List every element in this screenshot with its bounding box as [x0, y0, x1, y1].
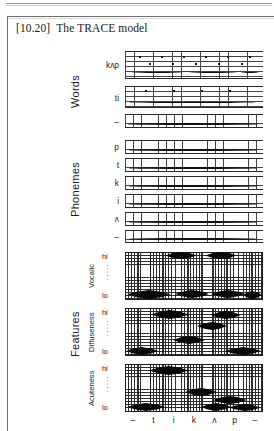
phoneme-panel-i [125, 194, 263, 208]
phoneme-activation-trace [129, 167, 257, 169]
word-tick [205, 56, 207, 58]
phoneme-panel-border [125, 140, 263, 154]
word-activation-trace [128, 102, 256, 104]
tier-words: Words kʌp [0, 50, 274, 133]
word-activation-trace [241, 72, 259, 74]
word-panel-dash [125, 114, 263, 128]
feature-scale-hi-diffuseness: hi [102, 309, 108, 316]
word-tick [173, 90, 175, 92]
word-panel-kap [125, 51, 263, 79]
phoneme-row-i: i [0, 194, 274, 209]
feature-scale-dots-acuteness: ····· [104, 376, 111, 400]
figure-page: [10.20]The TRACE model Words kʌp [0, 0, 274, 431]
phoneme-panel-k [125, 176, 263, 190]
phoneme-panel-border [125, 176, 263, 190]
word-activation-trace [189, 72, 237, 74]
axis-tick: i [167, 415, 181, 425]
feature-sub-label-vocalic: Vocalic [86, 252, 97, 300]
phoneme-activation-trace [129, 185, 257, 187]
figure-frame-inner-rule [8, 18, 274, 19]
word-row-label-dash: – [92, 118, 119, 126]
phoneme-panel-dash [125, 230, 263, 243]
word-row-ti: ti [0, 86, 274, 110]
feature-scale-dots-diffuseness: ····· [104, 320, 111, 344]
word-row-kap: kʌp [0, 50, 274, 80]
word-tick [161, 56, 163, 58]
word-tick [195, 63, 197, 65]
feature-row-acuteness: Acuteness hi ····· lo [0, 364, 274, 414]
feature-sub-label-diffuseness: Diffuseness [86, 308, 97, 356]
phoneme-row-p: p [0, 140, 274, 155]
feature-panel-vocalic [125, 252, 263, 300]
word-tick [249, 56, 251, 58]
phoneme-row-label-schwa: ʌ [92, 215, 119, 223]
word-tick [218, 63, 220, 65]
phoneme-row-label-k: k [92, 179, 119, 187]
word-tick [139, 56, 141, 58]
feature-sub-label-acuteness: Acuteness [86, 364, 97, 412]
phoneme-row-schwa: ʌ [0, 212, 274, 227]
feature-panel-diffuseness [125, 308, 263, 356]
word-panel-border [125, 114, 263, 128]
figure-number: [10.20] [16, 22, 50, 34]
word-tick [241, 63, 243, 65]
word-activation-trace [128, 123, 258, 125]
page-rule-top-secondary [6, 5, 272, 6]
axis-tick: – [126, 415, 140, 425]
axis-tick: – [248, 415, 262, 425]
phoneme-panel-schwa [125, 212, 263, 226]
feature-scale-dots-vocalic: ····· [104, 264, 111, 288]
word-tick [201, 90, 203, 92]
word-activation-trace [131, 72, 183, 74]
word-tick [149, 63, 151, 65]
feature-scale-lo-acuteness: lo [102, 404, 108, 411]
phoneme-panel-p [125, 140, 263, 154]
time-axis: – t i k ʌ p – [126, 415, 262, 425]
phoneme-row-dash: – [0, 230, 274, 245]
phoneme-row-t: t [0, 158, 274, 173]
phoneme-activation-trace [129, 203, 257, 205]
feature-row-vocalic: Vocalic hi ····· lo [0, 252, 274, 302]
word-row-dash: – [0, 114, 274, 131]
feature-scale-hi-vocalic: hi [102, 253, 108, 260]
feature-scale-lo-vocalic: lo [102, 292, 108, 299]
phoneme-panel-border [125, 212, 263, 226]
axis-tick: k [187, 415, 201, 425]
feature-scale-hi-acuteness: hi [102, 365, 108, 372]
word-row-label-ti: ti [92, 94, 119, 102]
figure-caption: [10.20]The TRACE model [16, 22, 148, 34]
tier-features: Features Vocalic hi ····· lo Diffuseness… [0, 252, 274, 427]
axis-tick: t [146, 415, 160, 425]
phoneme-activation-trace [129, 238, 257, 240]
phoneme-row-label-p: p [92, 143, 119, 151]
phoneme-activation-trace [129, 149, 257, 151]
phoneme-panel-t [125, 158, 263, 172]
page-rule-top [6, 3, 272, 4]
feature-panel-acuteness [125, 364, 263, 412]
phoneme-row-label-dash: – [92, 233, 119, 241]
phoneme-row-k: k [0, 176, 274, 191]
word-tick [145, 90, 147, 92]
axis-tick: ʌ [207, 415, 221, 425]
word-row-label-kap: kʌp [92, 61, 119, 69]
word-panel-ti [125, 86, 263, 108]
figure-title: The TRACE model [56, 22, 147, 34]
feature-row-diffuseness: Diffuseness hi ····· lo [0, 308, 274, 358]
axis-tick: p [228, 415, 242, 425]
phoneme-row-label-i: i [92, 197, 119, 205]
word-tick [227, 56, 229, 58]
tier-phonemes: Phonemes p t k [0, 140, 274, 244]
feature-scale-lo-diffuseness: lo [102, 348, 108, 355]
word-tick [229, 90, 231, 92]
phoneme-panel-border [125, 158, 263, 172]
phoneme-row-label-t: t [92, 161, 119, 169]
phoneme-panel-border [125, 194, 263, 208]
word-tick [183, 56, 185, 58]
phoneme-activation-trace [129, 221, 257, 223]
phoneme-panel-border [125, 230, 263, 243]
word-tick [172, 63, 174, 65]
